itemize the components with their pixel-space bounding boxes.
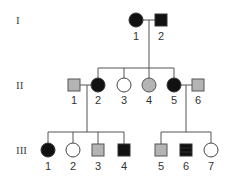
individual-III-6-affected-male [180, 144, 192, 156]
id-label: 5 [158, 160, 164, 172]
individual-II-6-carrier-male [192, 79, 204, 91]
individual-III-5-carrier-male [155, 144, 167, 156]
id-label: 1 [45, 160, 51, 172]
id-label: 3 [95, 160, 101, 172]
id-label: 4 [121, 160, 127, 172]
generation-label-II: II [16, 79, 24, 91]
id-label: 3 [121, 94, 127, 106]
individual-III-1-affected-female [41, 143, 55, 157]
id-label: 6 [195, 94, 201, 106]
id-label: 2 [158, 30, 164, 42]
id-label: 6 [183, 160, 189, 172]
individual-II-3-unaffected-female [117, 78, 131, 92]
id-label: 7 [208, 160, 214, 172]
individual-I-2-affected-male [155, 14, 167, 26]
generation-label-I: I [16, 14, 20, 26]
id-label: 1 [133, 30, 139, 42]
individual-III-2-unaffected-female [66, 143, 80, 157]
id-label: 1 [71, 94, 77, 106]
id-label: 2 [70, 160, 76, 172]
individual-II-5-affected-female [167, 78, 181, 92]
individual-III-3-carrier-male [92, 144, 104, 156]
id-label: 5 [171, 94, 177, 106]
individual-III-7-unaffected-female [204, 143, 218, 157]
id-label: 4 [146, 94, 152, 106]
individual-III-4-affected-male [118, 144, 130, 156]
generation-label-III: III [16, 144, 27, 156]
individual-II-4-carrier-female [142, 78, 156, 92]
individual-I-1-affected-female [129, 13, 143, 27]
pedigree-chart: I II III 1 2 1 2 3 4 5 6 1 2 3 4 5 6 [0, 0, 230, 176]
id-label: 2 [95, 94, 101, 106]
individual-II-1-carrier-male [68, 79, 80, 91]
individual-II-2-affected-female [91, 78, 105, 92]
